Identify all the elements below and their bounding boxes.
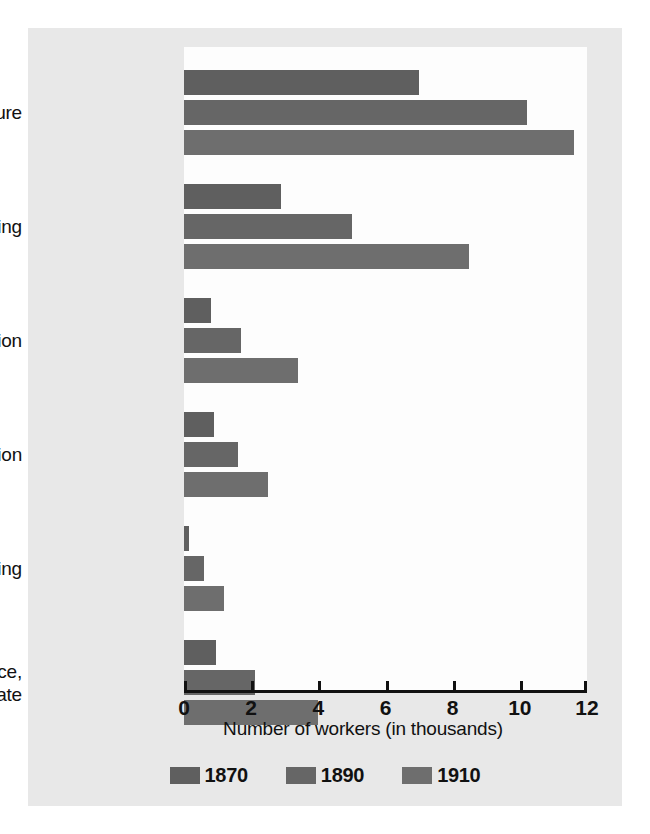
- category-label-line: Transportation: [0, 329, 22, 352]
- bar-row: [184, 586, 587, 611]
- legend-item-1890: 1890: [286, 764, 364, 787]
- bar-construction-1910: [184, 472, 268, 497]
- legend-swatch: [402, 767, 432, 784]
- plot-area: [184, 47, 587, 690]
- bar-row: [184, 358, 587, 383]
- bar-row: [184, 556, 587, 581]
- x-tick: [318, 681, 321, 693]
- category-label-line: Mining: [0, 557, 22, 580]
- category-label: Mining: [0, 557, 22, 580]
- bar-row: [184, 472, 587, 497]
- category-label-line: Agriculture: [0, 101, 22, 124]
- legend-label: 1910: [437, 764, 480, 787]
- category-label: Trade, finance,real estate: [0, 660, 22, 706]
- bar-row: [184, 100, 587, 125]
- bar-row: [184, 412, 587, 437]
- bar-row: [184, 214, 587, 239]
- x-tick-label: 0: [164, 696, 204, 720]
- x-tick-label: 8: [433, 696, 473, 720]
- bar-manufacturing-1870: [184, 184, 281, 209]
- bar-transportation-1870: [184, 298, 211, 323]
- legend-item-1910: 1910: [402, 764, 480, 787]
- category-label-line: real estate: [0, 683, 22, 706]
- category-label: Transportation: [0, 329, 22, 352]
- bar-agriculture-1870: [184, 70, 419, 95]
- x-tick-label: 10: [500, 696, 540, 720]
- bar-manufacturing-1890: [184, 214, 352, 239]
- x-tick: [184, 681, 187, 693]
- bar-row: [184, 526, 587, 551]
- chart-legend: 187018901910: [28, 764, 622, 787]
- legend-label: 1890: [321, 764, 364, 787]
- bar-transportation-1890: [184, 328, 241, 353]
- category-label: Manufacturing: [0, 215, 22, 238]
- x-tick: [453, 681, 456, 693]
- x-tick-label: 4: [298, 696, 338, 720]
- bar-row: [184, 442, 587, 467]
- legend-item-1870: 1870: [170, 764, 248, 787]
- bar-row: [184, 640, 587, 665]
- category-label-line: Trade, finance,: [0, 660, 22, 683]
- x-tick-label: 2: [231, 696, 271, 720]
- x-tick-label: 6: [366, 696, 406, 720]
- bar-row: [184, 184, 587, 209]
- x-tick: [386, 681, 389, 693]
- x-axis-title: Number of workers (in thousands): [128, 718, 598, 740]
- bar-row: [184, 70, 587, 95]
- legend-swatch: [286, 767, 316, 784]
- bar-agriculture-1890: [184, 100, 527, 125]
- bar-row: [184, 298, 587, 323]
- bar-row: [184, 328, 587, 353]
- x-axis: 024681012: [184, 690, 587, 691]
- bar-transportation-1910: [184, 358, 298, 383]
- bar-construction-1870: [184, 412, 214, 437]
- x-tick-label: 12: [567, 696, 607, 720]
- bar-row: [184, 244, 587, 269]
- category-label-line: Manufacturing: [0, 215, 22, 238]
- bar-mining-1910: [184, 586, 224, 611]
- bar-manufacturing-1910: [184, 244, 469, 269]
- bar-row: [184, 130, 587, 155]
- x-tick: [520, 681, 523, 693]
- category-label: Agriculture: [0, 101, 22, 124]
- x-tick: [251, 681, 254, 693]
- chart-figure: AgricultureManufacturingTransportationCo…: [28, 28, 622, 806]
- bar-agriculture-1910: [184, 130, 574, 155]
- bar-construction-1890: [184, 442, 238, 467]
- legend-swatch: [170, 767, 200, 784]
- x-tick: [584, 681, 587, 693]
- category-label-line: Construction: [0, 443, 22, 466]
- legend-label: 1870: [205, 764, 248, 787]
- bar-trade-finance-real-estate-1870: [184, 640, 216, 665]
- bar-mining-1870: [184, 526, 189, 551]
- category-label: Construction: [0, 443, 22, 466]
- bar-mining-1890: [184, 556, 204, 581]
